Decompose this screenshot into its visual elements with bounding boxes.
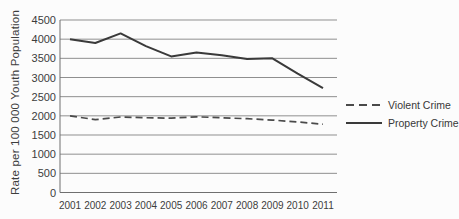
legend-label: Violent Crime [388, 99, 451, 111]
dashed-line-sample-icon [346, 104, 382, 106]
x-tick-label-2007: 2007 [211, 200, 234, 211]
x-tick-label-2002: 2002 [84, 200, 107, 211]
x-tick-label-2003: 2003 [109, 200, 132, 211]
y-tick-label-500: 500 [38, 167, 56, 179]
legend-label: Property Crime [388, 117, 459, 129]
y-axis-title: Rate per 100 000 Youth Population [7, 13, 23, 195]
chart-figure: 050010001500200025003000350040004500 200… [0, 0, 459, 219]
x-tick-label-2005: 2005 [160, 200, 183, 211]
y-tick-label-1000: 1000 [32, 148, 56, 160]
y-tick-label-2000: 2000 [32, 110, 56, 122]
series-group [70, 33, 323, 124]
y-tick-labels-group: 050010001500200025003000350040004500 [32, 14, 56, 199]
x-tick-label-2011: 2011 [312, 200, 334, 211]
y-tick-label-0: 0 [50, 187, 56, 199]
y-tick-label-3500: 3500 [32, 52, 56, 64]
y-tick-label-3000: 3000 [32, 72, 56, 84]
y-tick-label-1500: 1500 [32, 129, 56, 141]
x-tick-label-2008: 2008 [236, 200, 259, 211]
chart-legend: Violent Crime Property Crime [346, 98, 459, 130]
y-tick-label-4000: 4000 [32, 33, 56, 45]
x-tick-label-2006: 2006 [185, 200, 208, 211]
legend-item-violent-crime: Violent Crime [346, 98, 459, 112]
x-tick-label-2001: 2001 [59, 200, 82, 211]
x-tick-label-2004: 2004 [135, 200, 158, 211]
y-tick-label-2500: 2500 [32, 91, 56, 103]
x-tick-label-2010: 2010 [287, 200, 310, 211]
x-tick-label-2009: 2009 [261, 200, 284, 211]
legend-item-property-crime: Property Crime [346, 116, 459, 130]
series-line-violent-crime [70, 116, 323, 124]
series-line-property-crime [70, 33, 323, 88]
x-tick-labels-group: 2001200220032004200520062007200820092010… [59, 200, 334, 211]
y-tick-label-4500: 4500 [32, 14, 56, 26]
solid-line-sample-icon [346, 122, 382, 124]
gridlines-group [60, 20, 337, 193]
